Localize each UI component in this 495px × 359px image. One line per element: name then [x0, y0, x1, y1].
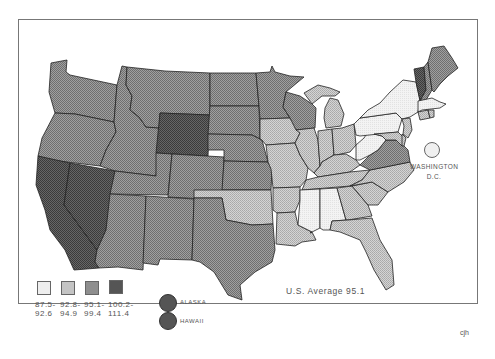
- state-ms: [298, 189, 320, 233]
- dc-marker: [424, 142, 440, 158]
- state-wa: [49, 60, 117, 122]
- us-average-label: U.S. Average 95.1: [286, 286, 365, 296]
- legend-swatch-1: [37, 281, 51, 295]
- legend-label-2: 92.8-94.9: [60, 300, 81, 318]
- credit-label: cjh: [460, 329, 469, 336]
- state-fl: [330, 218, 394, 290]
- hawaii-marker: [159, 312, 177, 330]
- legend-label-1: 87.5-92.6: [35, 300, 56, 318]
- state-nd: [210, 73, 259, 106]
- state-oh: [332, 124, 356, 155]
- state-ny: [360, 80, 420, 119]
- state-wy: [156, 113, 210, 156]
- hawaii-label: HAWAII: [180, 318, 204, 324]
- dc-label-line2: D.C.: [410, 173, 458, 180]
- alaska-label: ALASKA: [180, 299, 206, 305]
- legend-label-4: 100.2-111.4: [108, 300, 134, 318]
- legend-swatch-3: [85, 281, 99, 295]
- state-me: [428, 46, 458, 92]
- alaska-marker: [159, 294, 177, 312]
- legend-swatch-2: [61, 281, 75, 295]
- dc-label-line1: WASHINGTON: [410, 163, 458, 170]
- state-nm: [143, 196, 194, 265]
- legend-swatch-4: [109, 280, 123, 294]
- state-ar: [273, 187, 300, 213]
- legend-label-3: 95.1-99.4: [84, 300, 105, 318]
- state-ks: [222, 161, 272, 190]
